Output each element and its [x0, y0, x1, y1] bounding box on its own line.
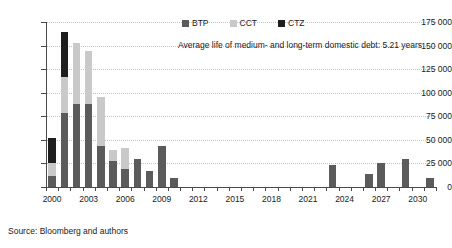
bar-segment-cct [97, 97, 105, 146]
x-axis-tick [95, 187, 96, 191]
gridline [46, 93, 436, 94]
x-axis-tick [436, 187, 437, 191]
chart-annotation: Average life of medium- and long-term do… [178, 40, 436, 52]
bar-segment-cct [85, 51, 93, 104]
bar-segment-cct [73, 43, 81, 104]
legend-label: BTP [192, 19, 209, 28]
bar-segment-cct [48, 163, 56, 176]
legend-label: CTZ [288, 19, 305, 28]
y-axis-tick [41, 46, 46, 47]
x-axis-label: 2027 [366, 195, 396, 204]
x-axis-tick [290, 187, 291, 191]
legend-swatch-icon [182, 20, 189, 27]
x-axis-tick [107, 187, 108, 191]
source-note: Source: Bloomberg and authors [8, 226, 128, 236]
bar-segment-btp [121, 169, 129, 187]
bar-segment-btp [48, 176, 56, 187]
bar-segment-btp [377, 163, 385, 187]
y-axis-label: 125 000 [408, 65, 452, 74]
chart-container: BTPCCTCTZ Average life of medium- and lo… [0, 0, 452, 248]
x-axis-tick [46, 187, 47, 191]
y-axis-label: 75 000 [408, 112, 452, 121]
chart-legend: BTPCCTCTZ [182, 19, 305, 28]
bar-2000 [48, 138, 56, 187]
bar-2006 [121, 148, 129, 187]
bar-2004 [97, 97, 105, 188]
bar-2008 [146, 171, 154, 187]
bar-segment-ctz [61, 32, 69, 76]
bar-segment-cct [109, 150, 117, 160]
y-axis-tick [41, 140, 46, 141]
x-axis-tick [180, 187, 181, 191]
bar-2010 [170, 178, 178, 187]
bar-segment-ctz [48, 138, 56, 163]
x-axis-tick [204, 187, 205, 191]
bar-segment-btp [85, 104, 93, 187]
x-axis-tick [253, 187, 254, 191]
x-axis-tick [387, 187, 388, 191]
bar-2009 [158, 146, 166, 187]
x-axis-label: 2012 [183, 195, 213, 204]
bar-segment-btp [158, 146, 166, 187]
y-axis-label: 175 000 [408, 18, 452, 27]
x-axis-tick [192, 187, 193, 191]
y-axis-tick [41, 116, 46, 117]
x-axis-tick [241, 187, 242, 191]
x-axis-tick [278, 187, 279, 191]
x-axis-label: 2030 [403, 195, 433, 204]
x-axis-tick [363, 187, 364, 191]
bar-2002 [73, 43, 81, 187]
y-axis-label: 25 000 [408, 159, 452, 168]
x-axis-tick [399, 187, 400, 191]
x-axis-label: 2003 [74, 195, 104, 204]
x-axis-label: 2000 [37, 195, 67, 204]
x-axis-label: 2015 [220, 195, 250, 204]
x-axis-tick [302, 187, 303, 191]
x-axis-tick [339, 187, 340, 191]
gridline [46, 69, 436, 70]
bar-segment-btp [134, 159, 142, 187]
x-axis-tick [412, 187, 413, 191]
x-axis-tick [119, 187, 120, 191]
legend-swatch-icon [278, 20, 285, 27]
x-axis-label: 2006 [110, 195, 140, 204]
x-axis-tick [326, 187, 327, 191]
y-axis-label: 0 [408, 183, 452, 192]
x-axis-tick [144, 187, 145, 191]
bar-segment-btp [146, 171, 154, 187]
x-axis-tick [156, 187, 157, 191]
x-axis-label: 2009 [147, 195, 177, 204]
x-axis-tick [314, 187, 315, 191]
x-axis-tick [375, 187, 376, 191]
legend-item-cct: CCT [230, 19, 257, 28]
bar-segment-btp [109, 161, 117, 187]
bar-2001 [61, 32, 69, 187]
bar-segment-btp [329, 165, 337, 187]
x-axis-label: 2024 [330, 195, 360, 204]
x-axis-tick [131, 187, 132, 191]
bar-segment-btp [61, 113, 69, 187]
bar-2023 [329, 165, 337, 187]
x-axis-tick [70, 187, 71, 191]
bar-2007 [134, 159, 142, 187]
bar-segment-btp [170, 178, 178, 187]
y-axis-tick [41, 163, 46, 164]
x-axis-tick [424, 187, 425, 191]
bar-2026 [365, 174, 373, 187]
y-axis-label: 100 000 [408, 89, 452, 98]
y-axis-tick [41, 69, 46, 70]
y-axis-tick [41, 93, 46, 94]
x-axis-tick [168, 187, 169, 191]
y-axis-label: 150 000 [408, 42, 452, 51]
x-axis-tick [229, 187, 230, 191]
bar-segment-cct [61, 77, 69, 113]
bar-segment-cct [121, 148, 129, 169]
x-axis-tick [83, 187, 84, 191]
y-axis-tick [41, 22, 46, 23]
legend-label: CCT [240, 19, 257, 28]
bar-2027 [377, 163, 385, 187]
x-axis-tick [351, 187, 352, 191]
x-axis-label: 2021 [293, 195, 323, 204]
legend-item-ctz: CTZ [278, 19, 305, 28]
legend-item-btp: BTP [182, 19, 209, 28]
